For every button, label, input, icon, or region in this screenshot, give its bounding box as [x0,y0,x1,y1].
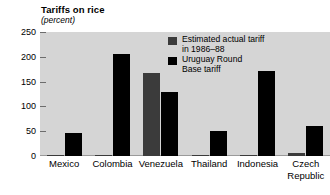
legend-entry: Uruguay RoundBase tariff [168,55,318,74]
bar [192,155,209,157]
y-axis-tick-label: 150 [2,77,36,86]
bar [288,153,305,156]
x-axis-category-label-line: Indonesia [237,158,278,169]
y-axis-tick-mark [40,32,46,33]
legend-color-swatch [168,57,177,65]
bar [210,131,227,156]
legend-label-line: Base tariff [182,65,318,75]
page-title: Tariffs on rice [41,4,291,15]
y-axis-tick-mark [40,57,46,58]
x-axis-category-label-line: Republic [276,170,330,182]
y-axis-tick-mark [40,131,46,132]
x-axis-category-label-line: Thailand [191,158,227,169]
x-axis-labels: MexicoColombiaVenezuelaThailandIndonesia… [40,158,330,194]
x-axis-category-label-line: Mexico [49,158,79,169]
y-axis-tick-label: 0 [2,152,36,161]
chart-figure: Tariffs on rice (percent) 05010015020025… [0,0,330,195]
bar [47,155,64,157]
x-axis-category-label-line: Colombia [92,158,132,169]
bar [143,73,160,156]
x-axis-category-label-line: Venezuela [139,158,183,169]
y-axis-tick-mark [40,82,46,83]
chart-subtitle: (percent) [41,15,291,26]
bar [95,155,112,157]
y-axis-tick-label: 250 [2,28,36,37]
x-axis-category-label: CzechRepublic [276,158,330,182]
bar [240,155,257,157]
bar [161,92,178,156]
y-axis-tick-mark [40,106,46,107]
legend-label-line: in 1986–88 [182,45,318,55]
bar [306,126,323,156]
y-axis-labels: 050100150200250 [0,32,36,156]
axis-baseline [40,155,330,156]
chart-legend: Estimated actual tariffin 1986–88Uruguay… [168,35,318,75]
bar [258,71,275,156]
title-block: Tariffs on rice (percent) [41,4,291,26]
y-axis-tick-label: 100 [2,102,36,111]
y-axis-tick-label: 200 [2,52,36,61]
bar [113,54,130,156]
legend-color-swatch [168,37,177,45]
y-axis-tick-label: 50 [2,127,36,136]
x-axis-category-label-line: Czech [292,158,319,169]
bar [65,133,82,156]
legend-entry: Estimated actual tariffin 1986–88 [168,35,318,54]
